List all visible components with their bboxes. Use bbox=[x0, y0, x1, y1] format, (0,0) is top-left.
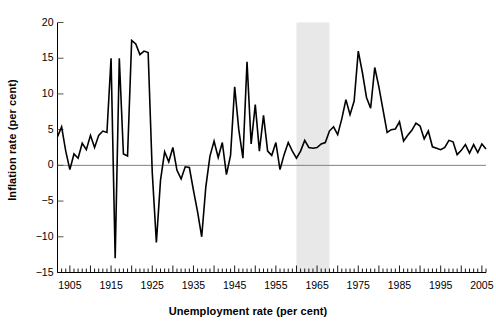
y-tick-label: −15 bbox=[10, 266, 54, 278]
y-tick-label: 5 bbox=[10, 123, 54, 135]
y-tick-label: 15 bbox=[10, 51, 54, 63]
chart-figure: Unemployment rate (per cent) Inflation r… bbox=[0, 0, 496, 327]
y-tick-label: 20 bbox=[10, 16, 54, 28]
y-tick-label: 10 bbox=[10, 87, 54, 99]
x-axis-title: Unemployment rate (per cent) bbox=[0, 305, 496, 317]
y-tick-label: −10 bbox=[10, 230, 54, 242]
x-tick-label: 2005 bbox=[457, 279, 496, 291]
y-tick-label: 0 bbox=[10, 158, 54, 170]
y-tick-label: −5 bbox=[10, 194, 54, 206]
